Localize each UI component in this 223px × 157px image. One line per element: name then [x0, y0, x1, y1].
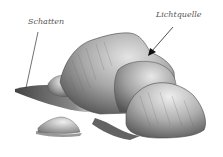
small-pebble [38, 117, 80, 134]
light-source-label: Lichtquelle [156, 10, 202, 19]
light-pointer-line [152, 27, 173, 51]
shadow-label: Schatten [28, 17, 64, 26]
shadow-pointer-line [26, 32, 38, 88]
rock-illustration: Schatten Lichtquelle [0, 0, 223, 157]
